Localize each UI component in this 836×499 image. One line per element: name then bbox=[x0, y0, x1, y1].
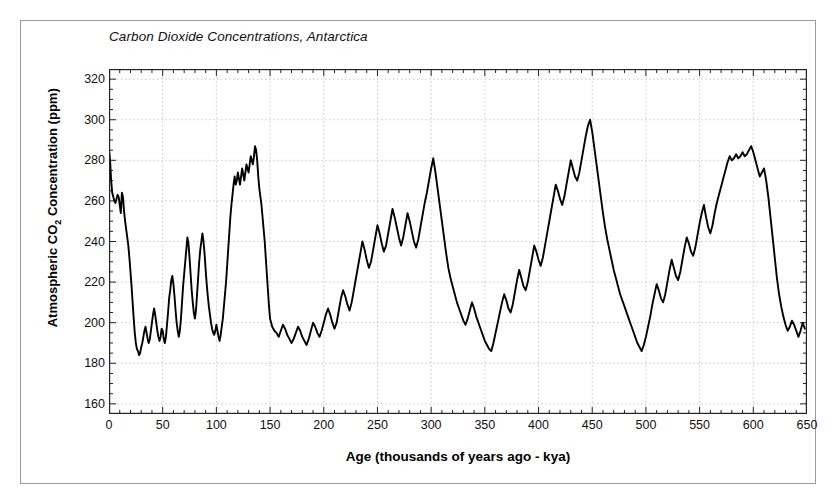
plot-wrapper: 160180200220240260280300320 050100150200… bbox=[109, 69, 807, 437]
y-tick-label: 200 bbox=[65, 316, 105, 330]
figure-frame: Carbon Dioxide Concentrations, Antarctic… bbox=[20, 20, 816, 484]
y-tick-label: 240 bbox=[65, 235, 105, 249]
y-tick-label: 300 bbox=[65, 113, 105, 127]
chart-title: Carbon Dioxide Concentrations, Antarctic… bbox=[109, 29, 368, 44]
y-tick-label: 280 bbox=[65, 153, 105, 167]
x-tick-label: 300 bbox=[409, 418, 453, 432]
x-tick-label: 450 bbox=[570, 418, 614, 432]
x-axis-title: Age (thousands of years ago - kya) bbox=[109, 449, 807, 464]
co2-data-series-line bbox=[109, 120, 805, 355]
x-tick-label: 250 bbox=[355, 418, 399, 432]
x-tick-label: 0 bbox=[87, 418, 131, 432]
y-tick-label: 220 bbox=[65, 275, 105, 289]
x-tick-label: 100 bbox=[194, 418, 238, 432]
plot-area[interactable] bbox=[109, 69, 807, 414]
x-tick-label: 650 bbox=[785, 418, 829, 432]
y-tick-label: 320 bbox=[65, 72, 105, 86]
y-axis-title-subscript: 2 bbox=[53, 220, 63, 225]
y-axis-title-text-after: Concentration (ppm) bbox=[45, 88, 60, 219]
x-tick-label: 150 bbox=[248, 418, 292, 432]
y-axis-title: Atmospheric CO2 Concentration (ppm) bbox=[45, 43, 63, 373]
x-tick-label: 600 bbox=[731, 418, 775, 432]
grid-lines bbox=[109, 69, 807, 414]
x-tick-label: 500 bbox=[624, 418, 668, 432]
y-tick-label: 160 bbox=[65, 397, 105, 411]
y-tick-label: 180 bbox=[65, 356, 105, 370]
y-tick-label: 260 bbox=[65, 194, 105, 208]
co2-line-chart bbox=[109, 69, 807, 414]
x-tick-label: 350 bbox=[463, 418, 507, 432]
x-tick-label: 50 bbox=[141, 418, 185, 432]
x-tick-label: 400 bbox=[517, 418, 561, 432]
x-tick-label: 550 bbox=[678, 418, 722, 432]
y-axis-title-text-before: Atmospheric CO bbox=[45, 225, 60, 328]
x-tick-label: 200 bbox=[302, 418, 346, 432]
grid-lines-horizontal bbox=[109, 79, 807, 404]
